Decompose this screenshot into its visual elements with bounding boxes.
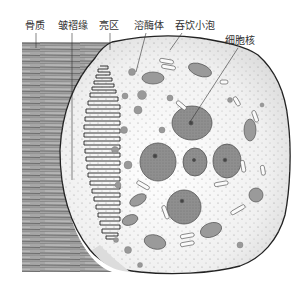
label-ruffled-border: 皱褶缘: [58, 20, 88, 32]
label-pinocytotic-vesicle: 吞饮小泡: [175, 20, 215, 32]
label-clear-zone: 亮区: [99, 20, 119, 32]
osteoclast-diagram: [0, 0, 303, 294]
label-bone-matrix: 骨质: [25, 20, 45, 32]
label-lysosome: 溶酶体: [134, 20, 164, 32]
nucleus-2: [140, 143, 176, 181]
nucleus-5: [167, 190, 201, 224]
nucleus-4: [213, 144, 241, 178]
nucleus-3: [183, 148, 207, 176]
label-nucleus: 细胞核: [225, 35, 255, 47]
